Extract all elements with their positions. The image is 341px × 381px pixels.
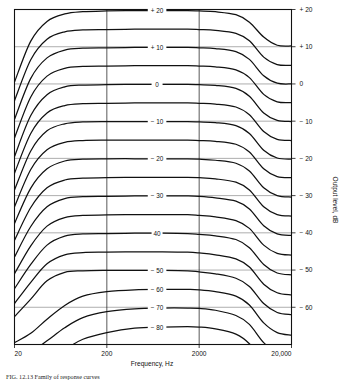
curve-label: − 10 (151, 118, 164, 125)
curve-label: − 80 (151, 324, 164, 331)
curve-label: − 20 (151, 155, 164, 162)
figure-caption: FIG. 12.13 Family of response curves (6, 373, 100, 380)
curve-label: − 70 (151, 304, 164, 311)
x-tick-label: 20,000 (271, 350, 292, 357)
curve-label: 0 (155, 81, 159, 88)
y-tick-label: − 30 (300, 192, 313, 199)
x-tick-label: 200 (101, 350, 112, 357)
figure-container: + 20+ 100− 10− 20− 3040− 50− 60− 70− 80 … (0, 0, 341, 381)
y-tick-label: 0 (300, 80, 304, 87)
y-tick-label: − 10 (300, 118, 313, 125)
x-axis-title: Frequency, Hz (131, 360, 173, 368)
curve-label: − 60 (151, 286, 164, 293)
y-tick-label: − 40 (300, 229, 313, 236)
curve-label: + 20 (151, 7, 164, 14)
chart-background (0, 0, 341, 381)
curve-label: − 30 (151, 192, 164, 199)
response-curve-chart: + 20+ 100− 10− 20− 3040− 50− 60− 70− 80 … (0, 0, 341, 381)
y-axis-title: Output level, dB (331, 177, 339, 225)
curve-label: + 10 (151, 44, 164, 51)
y-tick-label: − 60 (300, 304, 313, 311)
y-tick-label: + 10 (300, 43, 313, 50)
x-tick-label: 2000 (192, 350, 207, 357)
y-tick-label: − 20 (300, 155, 313, 162)
curve-label: − 50 (151, 267, 164, 274)
x-tick-label: 20 (15, 350, 23, 357)
curve-label: 40 (154, 230, 162, 237)
y-tick-label: − 50 (300, 266, 313, 273)
y-tick-label: + 20 (300, 6, 313, 13)
